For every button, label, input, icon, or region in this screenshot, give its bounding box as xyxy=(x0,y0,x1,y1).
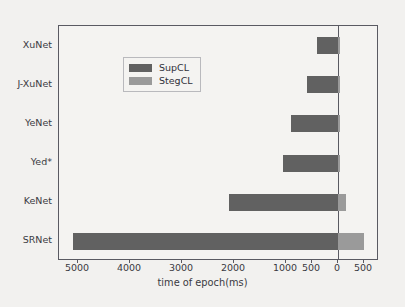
bar-stegcl xyxy=(338,155,340,172)
x-axis-tick-mark xyxy=(181,260,182,263)
x-axis-tick-label: 0 xyxy=(334,262,340,273)
bar-supcl xyxy=(317,37,338,54)
bar-row xyxy=(59,37,377,54)
y-axis-label-xunet: XuNet xyxy=(0,39,52,50)
y-axis-label-j-xunet: J-XuNet xyxy=(0,78,52,89)
bar-stegcl xyxy=(338,194,346,211)
x-axis-tick-label: 3000 xyxy=(169,262,193,273)
bar-supcl xyxy=(307,76,338,93)
zero-reference-line xyxy=(338,26,339,259)
plot-inner xyxy=(59,26,377,259)
bar-stegcl xyxy=(338,233,364,250)
bar-row xyxy=(59,194,377,211)
bar-row xyxy=(59,233,377,250)
x-axis-tick-mark xyxy=(337,260,338,263)
bar-supcl xyxy=(283,155,338,172)
x-axis-tick-mark xyxy=(77,260,78,263)
legend-swatch-supcl xyxy=(129,64,152,72)
bar-row xyxy=(59,76,377,93)
x-axis-tick-label: 500 xyxy=(354,262,372,273)
y-axis-label-srnet: SRNet xyxy=(0,234,52,245)
bar-stegcl xyxy=(338,115,340,132)
chart-legend: SupCL StegCL xyxy=(123,57,201,92)
x-axis-tick-label: 500 xyxy=(302,262,320,273)
figure-container: XuNetJ-XuNetYeNetYed*KeNetSRNet SupCL St… xyxy=(0,0,405,307)
legend-entry-stegcl: StegCL xyxy=(129,74,193,87)
legend-swatch-stegcl xyxy=(129,77,152,85)
bar-row xyxy=(59,155,377,172)
legend-entry-supcl: SupCL xyxy=(129,61,193,74)
y-axis-label-yed-: Yed* xyxy=(0,156,52,167)
y-axis-label-kenet: KeNet xyxy=(0,195,52,206)
x-axis-tick-label: 1000 xyxy=(273,262,297,273)
x-axis-tick-label: 2000 xyxy=(221,262,245,273)
x-axis-tick-mark xyxy=(129,260,130,263)
legend-label-stegcl: StegCL xyxy=(159,75,193,86)
x-axis-tick-label: 4000 xyxy=(117,262,141,273)
bar-supcl xyxy=(291,115,338,132)
y-axis-label-yenet: YeNet xyxy=(0,117,52,128)
x-axis-tick-mark xyxy=(285,260,286,263)
bar-stegcl xyxy=(338,37,340,54)
x-axis-title: time of epoch(ms) xyxy=(0,277,405,288)
bar-row xyxy=(59,115,377,132)
plot-area: SupCL StegCL xyxy=(58,25,378,260)
x-axis-tick-mark xyxy=(311,260,312,263)
bar-supcl xyxy=(229,194,338,211)
x-axis-tick-label: 5000 xyxy=(65,262,89,273)
x-axis-tick-mark xyxy=(233,260,234,263)
bar-stegcl xyxy=(338,76,340,93)
legend-label-supcl: SupCL xyxy=(159,62,189,73)
bar-supcl xyxy=(73,233,338,250)
x-axis-tick-mark xyxy=(363,260,364,263)
